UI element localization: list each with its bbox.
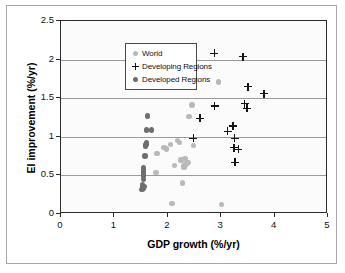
chart-legend: World Developing Regions Developed Regio… xyxy=(125,43,197,90)
gridline xyxy=(61,98,326,99)
data-point-world xyxy=(216,79,221,84)
data-point-developing-regions xyxy=(239,53,247,61)
x-tick-label: 2 xyxy=(155,220,179,230)
data-point-developing-regions xyxy=(189,134,197,142)
data-point-developing-regions xyxy=(211,102,219,110)
data-point-developing-regions xyxy=(234,145,242,153)
x-tick-label: 4 xyxy=(262,220,286,230)
gridline xyxy=(61,175,326,176)
x-tick-mark xyxy=(327,213,328,217)
x-tick-mark xyxy=(220,213,221,217)
data-point-developing-regions xyxy=(229,122,237,130)
data-point-developing-regions xyxy=(231,158,239,166)
data-point-developed-regions xyxy=(142,153,147,158)
legend-label-developing-regions: Developing Regions xyxy=(142,62,212,71)
data-point-world xyxy=(219,202,224,207)
data-point-developing-regions xyxy=(244,83,252,91)
x-axis-title: GDP growth (%/yr) xyxy=(60,238,327,250)
data-point-developing-regions xyxy=(210,49,218,57)
x-tick-mark xyxy=(167,213,168,217)
legend-label-developed-regions: Developed Regions xyxy=(142,75,210,84)
data-point-world xyxy=(169,201,174,206)
figure: 00.511.522.5 012345 World Developing Reg… xyxy=(0,0,345,273)
data-point-world xyxy=(153,170,158,175)
plus-marker-icon xyxy=(129,63,142,70)
legend-label-world: World xyxy=(142,49,162,58)
x-tick-label: 1 xyxy=(101,220,125,230)
data-point-world xyxy=(189,102,194,107)
legend-item-developing-regions: Developing Regions xyxy=(129,60,192,73)
data-point-world xyxy=(154,151,159,156)
data-point-world xyxy=(185,160,190,165)
x-tick-label: 0 xyxy=(48,220,72,230)
x-tick-label: 5 xyxy=(315,220,339,230)
developed-marker-icon xyxy=(129,77,142,82)
data-point-developed-regions xyxy=(149,127,154,132)
legend-item-developed-regions: Developed Regions xyxy=(129,73,192,86)
data-point-developed-regions xyxy=(144,140,149,145)
legend-item-world: World xyxy=(129,47,192,60)
data-point-world xyxy=(180,180,185,185)
data-point-developing-regions xyxy=(243,104,251,112)
data-point-developing-regions xyxy=(260,90,268,98)
x-tick-label: 3 xyxy=(208,220,232,230)
x-tick-mark xyxy=(274,213,275,217)
data-point-developed-regions xyxy=(145,113,150,118)
data-point-developed-regions xyxy=(142,184,147,189)
data-point-world xyxy=(177,140,182,145)
data-point-world xyxy=(172,163,177,168)
y-axis-title: EI improvement (%/yr) xyxy=(25,22,37,215)
data-point-world xyxy=(186,114,191,119)
x-tick-mark xyxy=(113,213,114,217)
x-tick-mark xyxy=(60,213,61,217)
data-point-developing-regions xyxy=(196,114,204,122)
data-point-developing-regions xyxy=(231,134,239,142)
data-point-world xyxy=(168,142,173,147)
plot-area: World Developing Regions Developed Regio… xyxy=(60,20,327,213)
data-point-world xyxy=(191,143,196,148)
world-marker-icon xyxy=(129,51,142,56)
data-point-world xyxy=(164,146,169,151)
